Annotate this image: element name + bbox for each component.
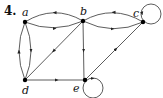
label-c: c — [133, 7, 139, 20]
node-e — [83, 78, 87, 82]
label-b: b — [80, 5, 87, 18]
edge-b-e — [83, 21, 84, 80]
edge-b-d — [25, 21, 83, 80]
label-d: d — [22, 84, 29, 97]
edge-a-d — [25, 22, 31, 80]
edge-b-c — [83, 21, 143, 29]
node-c — [141, 20, 145, 24]
node-b — [81, 19, 85, 23]
edge-b-a — [25, 13, 83, 22]
label-a: a — [22, 6, 29, 19]
edge-a-b — [25, 21, 83, 28]
node-d — [23, 78, 27, 82]
edge-e-c — [85, 22, 143, 80]
directed-graph: a b c d e — [0, 0, 163, 98]
label-e: e — [73, 82, 80, 95]
node-a — [23, 20, 27, 24]
edge-d-a — [19, 22, 25, 80]
